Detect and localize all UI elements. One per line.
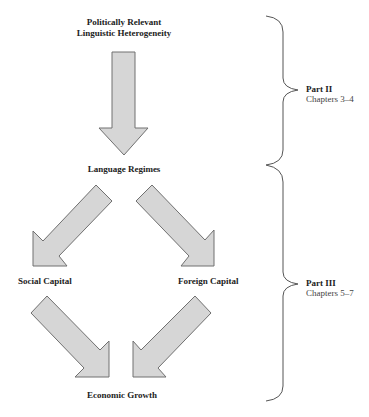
brace-part-3 [266, 165, 298, 401]
brace-part-2 [266, 16, 298, 165]
node-social-capital: Social Capital [18, 276, 72, 287]
arrow-regimes-to-social-capital [33, 185, 112, 266]
arrow-heterogeneity-to-regimes [99, 52, 148, 155]
node-heterogeneity-line1: Politically Relevant [77, 17, 172, 28]
node-economic-growth: Economic Growth [87, 390, 157, 401]
arrow-regimes-to-foreign-capital [136, 185, 214, 266]
part-2-chapters: Chapters 3–4 [306, 94, 354, 104]
node-heterogeneity-line2: Linguistic Heterogeneity [77, 28, 172, 39]
arrow-foreign-capital-to-growth [133, 296, 211, 377]
causal-diagram: Politically Relevant Linguistic Heteroge… [0, 0, 369, 417]
part-3-title: Part III [306, 278, 336, 288]
part-3-chapters: Chapters 5–7 [306, 288, 354, 298]
diagram-graphics [0, 0, 369, 417]
arrow-social-capital-to-growth [31, 296, 109, 377]
node-foreign-capital: Foreign Capital [178, 276, 239, 287]
part-2-title: Part II [306, 84, 332, 94]
node-language-regimes: Language Regimes [88, 164, 161, 175]
node-heterogeneity: Politically Relevant Linguistic Heteroge… [77, 17, 172, 39]
